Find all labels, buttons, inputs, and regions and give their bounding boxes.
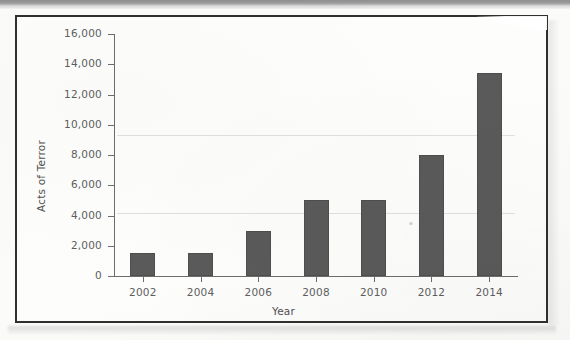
x-axis-tick-label: 2010 (344, 286, 404, 298)
chart-figure-frame: 02,0004,0006,0008,00010,00012,00014,0001… (15, 15, 548, 323)
bar-chart-plot-area: 02,0004,0006,0008,00010,00012,00014,0001… (17, 17, 550, 325)
y-axis-tick (108, 125, 114, 126)
y-axis-tick-label: 6,000 (0, 178, 102, 190)
scan-top-band-edge (0, 7, 570, 9)
bar (419, 155, 444, 276)
bar (477, 73, 502, 276)
bar (188, 253, 213, 276)
y-axis-tick (108, 276, 114, 277)
y-axis-tick-label: 14,000 (0, 57, 102, 69)
y-axis-tick (108, 34, 114, 35)
x-axis-tick (374, 277, 375, 282)
scanned-page-background: 02,0004,0006,0008,00010,00012,00014,0001… (0, 0, 570, 340)
y-axis-tick (108, 185, 114, 186)
x-axis-tick (143, 277, 144, 282)
y-axis-tick-label: 0 (0, 269, 102, 281)
bar (130, 253, 155, 276)
y-axis-tick-label: 4,000 (0, 209, 102, 221)
x-axis-tick-label: 2002 (113, 286, 173, 298)
x-axis-tick-label: 2012 (401, 286, 461, 298)
x-axis-tick-label: 2014 (459, 286, 519, 298)
x-axis-tick (489, 277, 490, 282)
y-axis-tick (108, 216, 114, 217)
y-axis-tick (108, 246, 114, 247)
x-axis-tick-label: 2008 (286, 286, 346, 298)
x-axis-tick (258, 277, 259, 282)
x-axis-tick (316, 277, 317, 282)
y-axis-tick-label: 10,000 (0, 118, 102, 130)
scan-streak (117, 135, 515, 136)
y-axis-tick (108, 95, 114, 96)
y-axis-tick (108, 155, 114, 156)
y-axis-title: Acts of Terror (35, 121, 47, 231)
y-axis-tick-label: 12,000 (0, 88, 102, 100)
scan-top-band (0, 0, 570, 7)
x-axis-tick-label: 2004 (171, 286, 231, 298)
x-axis-tick-label: 2006 (228, 286, 288, 298)
x-axis-title: Year (17, 305, 550, 317)
y-axis-tick-label: 16,000 (0, 27, 102, 39)
bar (246, 231, 271, 276)
bar (361, 200, 386, 276)
y-axis-tick-label: 2,000 (0, 239, 102, 251)
x-axis-tick (431, 277, 432, 282)
bar (304, 200, 329, 276)
y-axis-tick (108, 64, 114, 65)
x-axis-tick (201, 277, 202, 282)
y-axis-line (114, 34, 115, 277)
scan-shadow-bottom (8, 326, 556, 335)
scan-speck (409, 222, 413, 225)
y-axis-tick-label: 8,000 (0, 148, 102, 160)
